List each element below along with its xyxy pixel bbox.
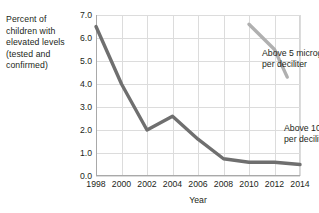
- x-axis-tick-label: 2002: [137, 179, 156, 189]
- annotation-above-5-line-1: Above 5 micrograms: [262, 48, 319, 59]
- y-axis-tick-label: 5.0: [80, 57, 92, 66]
- x-axis-tick-label: 1998: [86, 179, 105, 189]
- y-axis-tick-label: 6.0: [80, 34, 92, 43]
- x-axis-tick-label: 2010: [239, 179, 258, 189]
- series-annotation-above-10-micrograms: Above 10 micrograms per deciliter: [284, 123, 319, 145]
- y-axis-tick-label: 1.0: [80, 149, 92, 158]
- y-axis-tick-label: 4.0: [80, 80, 92, 89]
- y-axis-tick-label: 7.0: [80, 11, 92, 20]
- x-axis-tick-label: 2008: [214, 179, 233, 189]
- y-axis-tick-label: 3.0: [80, 103, 92, 112]
- x-axis-tick-label: 2000: [112, 179, 131, 189]
- x-axis-title: Year: [96, 195, 300, 205]
- annotation-above-10-line-1: Above 10 micrograms: [284, 123, 319, 134]
- series-lines: [96, 15, 300, 176]
- annotation-above-5-line-2: per deciliter: [262, 59, 319, 70]
- x-axis-tick-label: 2012: [265, 179, 284, 189]
- annotation-above-10-line-2: per deciliter: [284, 134, 319, 145]
- x-axis-tick-label: 2004: [163, 179, 182, 189]
- plot-area: Above 5 micrograms per deciliter Above 1…: [96, 15, 300, 176]
- x-axis-tick-label: 2006: [188, 179, 207, 189]
- gridline-vertical: [300, 15, 301, 176]
- gridline-horizontal: [96, 176, 300, 177]
- series-annotation-above-5-micrograms: Above 5 micrograms per deciliter: [262, 48, 319, 70]
- x-axis-tick-labels: 199820002002200420062008201020122014: [96, 179, 300, 191]
- line-chart-figure: Percent of children with elevated levels…: [0, 0, 319, 213]
- y-axis-tick-label: 2.0: [80, 126, 92, 135]
- y-axis-tick-labels: 0.01.02.03.04.05.06.07.0: [62, 15, 92, 176]
- x-axis-tick-label: 2014: [290, 179, 309, 189]
